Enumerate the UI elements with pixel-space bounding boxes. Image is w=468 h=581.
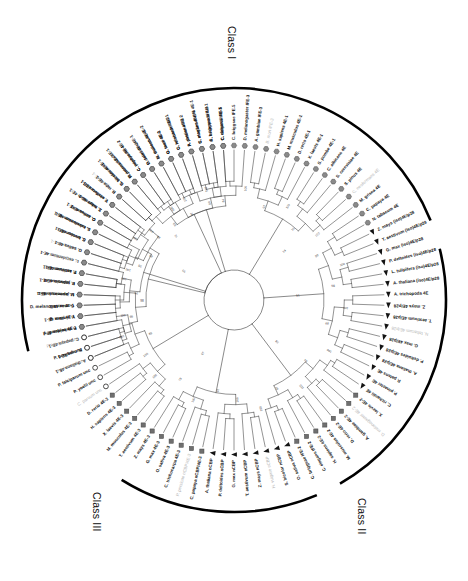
hexagon-marker: [159, 161, 164, 166]
triangle-marker: [378, 344, 384, 351]
bootstrap-value: 100: [243, 186, 248, 192]
square-marker: [304, 434, 308, 438]
circle-marker: [98, 375, 103, 380]
hexagon-marker: [304, 161, 309, 166]
triangle-marker: [252, 450, 258, 455]
tip-label: A. thaliana (iso)4E/p28: [393, 276, 440, 286]
tip-label: D. melanogaster IFE-3: [242, 94, 250, 140]
bootstrap-value: 98: [331, 284, 335, 288]
hexagon-marker: [78, 314, 83, 319]
bootstrap-value: 95: [137, 263, 142, 268]
square-marker: [117, 401, 121, 405]
hexagon-marker: [210, 145, 215, 150]
bootstrap-value: 94: [303, 358, 308, 363]
bootstrap-value: 100: [169, 205, 175, 212]
square-marker: [141, 423, 145, 427]
tip-label: H. vulgare nCBP: [264, 456, 276, 489]
bootstrap-value: 96: [134, 291, 138, 295]
tip-label: G. max 4E/p28: [388, 336, 419, 348]
tip-label: C. briggsae IFE-5: [231, 104, 236, 140]
tip-label: G. max nCBP: [231, 460, 236, 488]
bootstrap-value: 89: [325, 321, 330, 326]
triangle-marker: [370, 229, 377, 236]
circle-marker: [93, 365, 98, 370]
triangle-marker: [283, 442, 290, 448]
hexagon-marker: [79, 271, 84, 276]
hexagon-marker: [263, 147, 268, 152]
bootstrap-value: 100: [121, 276, 127, 281]
tip-label: O. sativa 4E-1: [53, 240, 82, 254]
bootstrap-value: 61: [296, 293, 300, 297]
circle-marker: [85, 345, 90, 350]
bootstrap-value: 100: [182, 196, 188, 203]
bootstrap-value: 86: [140, 298, 144, 302]
hexagon-marker: [339, 187, 344, 192]
square-marker: [169, 439, 173, 443]
bootstrap-value: 100: [314, 231, 321, 238]
bootstrap-value: 87: [274, 385, 279, 390]
hexagon-marker: [77, 303, 82, 308]
triangle-marker: [378, 249, 384, 256]
tip-label: L. japonicus 4E-1: [38, 291, 74, 297]
bootstrap-value: 100: [120, 313, 126, 318]
hexagon-marker: [110, 203, 115, 208]
hexagon-marker: [168, 157, 173, 162]
bootstrap-value: 100: [125, 267, 131, 272]
square-marker: [323, 423, 327, 427]
hexagon-marker: [294, 157, 299, 162]
hexagon-marker: [103, 211, 108, 216]
hexagon-marker: [253, 145, 258, 150]
hexagon-marker: [84, 250, 89, 255]
hexagon-marker: [331, 179, 336, 184]
triangle-marker: [381, 259, 387, 266]
bootstrap-value: 91: [262, 204, 267, 209]
hexagon-marker: [77, 292, 82, 297]
hexagon-marker: [365, 220, 370, 225]
triangle-marker: [381, 334, 387, 341]
triangle-marker: [385, 313, 390, 319]
triangle-marker: [231, 452, 237, 457]
hexagon-marker: [274, 149, 279, 154]
class-label-class-3: Class III: [91, 492, 103, 532]
bootstrap-value: 100: [258, 405, 263, 411]
triangle-marker: [386, 292, 391, 298]
square-marker: [133, 416, 137, 420]
bootstrap-value: 99: [314, 253, 319, 258]
tip-label: H. vulgare 4E-1: [48, 252, 79, 264]
bootstrap-value: 72: [173, 233, 178, 238]
square-marker: [150, 429, 154, 433]
bootstrap-value: 100: [142, 352, 149, 358]
tip-label: H. sapiens 4E-1: [275, 114, 289, 147]
bootstrap-value: 100: [298, 383, 305, 390]
hexagon-marker: [189, 149, 194, 154]
tip-label: S. moellendorffii 4E-1: [189, 99, 203, 144]
tip-labels-group: A. thaliana 4E-1B. rapa 4E-1C. papaya 4E…: [30, 94, 440, 500]
square-marker: [331, 416, 335, 420]
square-marker: [179, 443, 183, 447]
square-marker: [354, 393, 358, 397]
hexagon-marker: [199, 147, 204, 152]
bootstrap-value: 84: [221, 198, 225, 202]
tip-label: P. patens 4E-1: [179, 117, 192, 147]
tip-label: Z. mays 4E/p28: [393, 303, 425, 309]
bootstrap-value: 92: [216, 388, 221, 392]
class-arc-class-1: [22, 88, 431, 351]
tree-branches-group: [84, 150, 384, 450]
tip-label: P. deltoides nCBP: [217, 459, 225, 496]
square-marker: [200, 449, 204, 453]
hexagon-marker: [98, 220, 103, 225]
bootstrap-value: 100: [339, 262, 345, 267]
triangle-marker: [273, 446, 280, 452]
square-marker: [159, 434, 163, 438]
tip-label: Z. mays nCBP: [253, 458, 262, 488]
hexagon-marker: [140, 173, 145, 178]
triangle-marker: [374, 239, 380, 246]
square-marker: [125, 409, 129, 413]
hexagon-marker: [132, 179, 137, 184]
hexagon-marker: [284, 152, 289, 157]
bootstrap-value: 100: [132, 235, 139, 241]
triangle-marker: [370, 364, 377, 371]
circle-marker: [104, 384, 109, 389]
tip-label: S. bicolor nCBP: [275, 453, 289, 486]
triangle-marker: [385, 281, 390, 287]
